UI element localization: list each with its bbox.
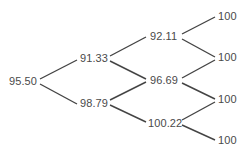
edge-l2-mid-to-l3-2 [182, 83, 215, 99]
node-l3-3: 100 [218, 134, 237, 146]
edge-l2-mid-to-l3-1 [182, 60, 215, 78]
node-l3-0: 100 [218, 10, 237, 22]
edge-l2-down-to-l3-3 [182, 125, 215, 140]
edge-root-to-l1-down [40, 84, 77, 104]
edge-l1-up-to-l2-up [110, 37, 146, 56]
edge-l1-down-to-l2-down [110, 105, 146, 122]
node-l1-up: 91.33 [80, 52, 108, 64]
node-l2-up: 92.11 [150, 30, 177, 42]
node-l3-2: 100 [218, 93, 237, 105]
edge-l1-up-to-l2-mid [110, 61, 146, 79]
node-l2-mid: 96.69 [150, 74, 178, 86]
node-root: 95.50 [9, 75, 37, 87]
edge-root-to-l1-up [40, 60, 77, 79]
edge-l2-up-to-l3-1 [182, 39, 215, 57]
node-l3-1: 100 [218, 51, 237, 63]
edge-l1-down-to-l2-mid [110, 82, 146, 100]
edge-l2-down-to-l3-2 [182, 102, 215, 120]
edge-l2-up-to-l3-0 [182, 17, 215, 34]
node-l2-down: 100.22 [148, 117, 182, 129]
node-l1-down: 98.79 [80, 97, 108, 109]
